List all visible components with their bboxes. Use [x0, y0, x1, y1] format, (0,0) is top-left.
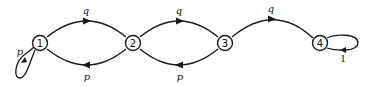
edge-2-to-3: q: [140, 5, 218, 37]
arrow-icon: [82, 62, 90, 69]
node-label-2: 2: [130, 38, 136, 49]
node-3: 3: [218, 36, 233, 51]
edge-1-to-2: q: [47, 5, 126, 37]
arrow-icon: [83, 18, 91, 25]
arrow-icon: [268, 16, 276, 23]
edge-label-1-2: q: [83, 5, 89, 16]
edge-label-2-1: p: [84, 71, 91, 82]
edge-label-2-3: q: [176, 5, 182, 16]
arrow-icon: [175, 62, 183, 69]
edge-label-4-4: 1: [340, 54, 346, 64]
edge-3-to-2: p: [140, 49, 218, 82]
node-label-4: 4: [317, 38, 323, 49]
edge-label-1-1: p: [17, 46, 24, 57]
node-2: 2: [126, 36, 141, 51]
edge-label-3-4: q: [268, 3, 274, 14]
self-loop-4: 1: [327, 35, 358, 64]
arrow-icon: [21, 57, 27, 63]
node-label-3: 3: [222, 38, 228, 49]
edge-label-3-2: p: [177, 71, 184, 82]
arrow-icon: [340, 47, 346, 53]
node-1: 1: [33, 36, 48, 51]
node-label-1: 1: [37, 38, 43, 49]
edge-3-to-4: q: [232, 3, 313, 38]
arrow-icon: [176, 18, 184, 25]
node-4: 4: [313, 36, 328, 51]
edge-2-to-1: p: [47, 49, 126, 82]
self-loop-1: p: [16, 46, 35, 78]
state-diagram: q p q p q p 1 1 2: [0, 0, 375, 86]
